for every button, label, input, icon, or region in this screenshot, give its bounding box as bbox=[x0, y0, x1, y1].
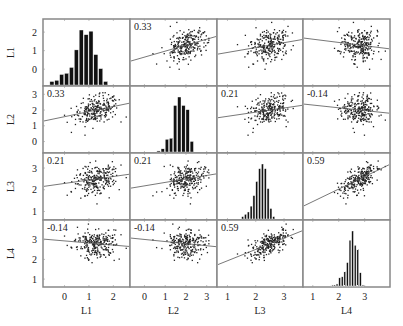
y-tick-label: 2 bbox=[32, 184, 37, 195]
panel-L4-L4 bbox=[303, 220, 390, 287]
correlation-label: 0.59 bbox=[221, 222, 239, 233]
y-tick-label: 3 bbox=[32, 89, 37, 100]
y-tick-label: 0 bbox=[32, 136, 37, 147]
x-tick-label: 1 bbox=[163, 291, 168, 302]
y-tick-label: 1 bbox=[32, 120, 37, 131]
row-label-L1: L1 bbox=[5, 47, 16, 58]
correlation-label: 0.59 bbox=[307, 155, 325, 166]
x-tick-label: 2 bbox=[111, 291, 116, 302]
panel-L2-L1: 0.33 bbox=[43, 86, 130, 153]
panel-L2-L3: 0.21 bbox=[217, 86, 303, 153]
correlation-label: -0.14 bbox=[307, 88, 328, 99]
correlation-label: 0.33 bbox=[134, 21, 152, 32]
panel-L1-L3 bbox=[217, 19, 303, 86]
col-label-L1: L1 bbox=[81, 305, 92, 316]
panel-L3-L2: 0.21 bbox=[130, 153, 217, 220]
x-tick-label: 2 bbox=[183, 291, 188, 302]
panel-L3-L3 bbox=[217, 153, 303, 220]
scatterplot-matrix: 0.330.330.21-0.140.210.210.59-0.14-0.140… bbox=[0, 0, 403, 326]
col-label-L3: L3 bbox=[254, 305, 265, 316]
x-tick-label: 2 bbox=[336, 291, 341, 302]
x-tick-label: 1 bbox=[225, 291, 230, 302]
panel-L4-L2: -0.14 bbox=[130, 220, 217, 287]
correlation-label: 0.21 bbox=[47, 155, 65, 166]
x-tick-label: 0 bbox=[62, 291, 67, 302]
x-tick-label: 1 bbox=[86, 291, 91, 302]
y-tick-label: 0 bbox=[32, 64, 37, 75]
correlation-label: -0.14 bbox=[134, 222, 155, 233]
panel-L3-L4: 0.59 bbox=[303, 153, 390, 220]
y-tick-label: 2 bbox=[32, 105, 37, 116]
correlation-label: 0.21 bbox=[134, 155, 152, 166]
row-label-L4: L4 bbox=[5, 248, 16, 259]
correlation-label: -0.14 bbox=[47, 222, 68, 233]
x-tick-label: 3 bbox=[204, 291, 209, 302]
y-tick-label: 1 bbox=[32, 45, 37, 56]
panel-L1-L4 bbox=[303, 19, 390, 86]
row-label-L2: L2 bbox=[5, 114, 16, 125]
panel-L2-L2 bbox=[130, 86, 217, 153]
y-tick-label: 2 bbox=[32, 27, 37, 38]
panel-L1-L1 bbox=[43, 19, 130, 86]
x-tick-label: 2 bbox=[253, 291, 258, 302]
x-tick-label: 3 bbox=[362, 291, 367, 302]
y-tick-label: 3 bbox=[32, 234, 37, 245]
x-tick-label: 0 bbox=[142, 291, 147, 302]
panel-L3-L1: 0.21 bbox=[43, 153, 130, 220]
y-tick-label: 1 bbox=[32, 206, 37, 217]
row-label-L3: L3 bbox=[5, 181, 16, 192]
y-tick-label: 2 bbox=[32, 254, 37, 265]
y-tick-label: 3 bbox=[32, 163, 37, 174]
panel-L2-L4: -0.14 bbox=[303, 86, 390, 153]
col-label-L4: L4 bbox=[341, 305, 352, 316]
panel-L1-L2: 0.33 bbox=[130, 19, 217, 86]
x-tick-label: 3 bbox=[282, 291, 287, 302]
correlation-label: 0.33 bbox=[47, 88, 65, 99]
y-tick-label: 1 bbox=[32, 274, 37, 285]
panel-L4-L3: 0.59 bbox=[217, 220, 303, 287]
correlation-label: 0.21 bbox=[221, 88, 239, 99]
x-tick-label: 1 bbox=[310, 291, 315, 302]
panel-L4-L1: -0.14 bbox=[43, 220, 130, 287]
col-label-L2: L2 bbox=[168, 305, 179, 316]
